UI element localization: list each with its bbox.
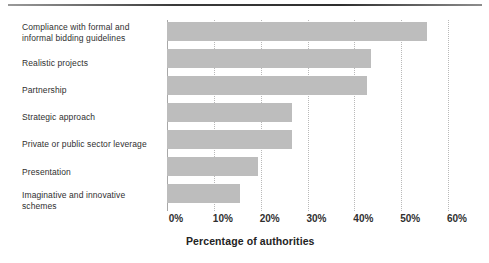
xtick-label-6: 60% xyxy=(447,213,467,224)
bar-6 xyxy=(167,184,240,203)
gridline-60 xyxy=(448,20,450,211)
bar-5 xyxy=(167,157,258,176)
category-label-0-line-1: informal bidding guidelines xyxy=(22,33,167,44)
bar-0 xyxy=(167,22,427,41)
category-label-0: Compliance with formal and informal bidd… xyxy=(22,22,167,44)
plot-area xyxy=(167,20,448,211)
category-label-3: Strategic approach xyxy=(22,112,167,123)
bar-4 xyxy=(167,130,292,149)
xtick-label-5: 50% xyxy=(400,213,420,224)
xtick-label-2: 20% xyxy=(260,213,280,224)
xtick-label-1: 10% xyxy=(213,213,233,224)
xtick-label-3: 30% xyxy=(306,213,326,224)
category-label-4: Private or public sector leverage xyxy=(22,139,167,150)
category-label-0-line-0: Compliance with formal and xyxy=(22,22,167,33)
category-label-2-line-0: Partnership xyxy=(22,85,167,96)
bar-1 xyxy=(167,49,371,68)
category-label-1: Realistic projects xyxy=(22,58,167,69)
category-label-5: Presentation xyxy=(22,167,167,178)
x-axis-title: Percentage of authorities xyxy=(186,235,315,247)
category-label-6-line-0: Imaginative and innovative xyxy=(22,190,167,201)
xtick-label-4: 40% xyxy=(353,213,373,224)
xtick-label-0: 0% xyxy=(169,213,183,224)
gridline-50 xyxy=(401,20,403,211)
bar-3 xyxy=(167,103,292,122)
category-label-6-line-1: schemes xyxy=(22,201,167,212)
category-label-2: Partnership xyxy=(22,85,167,96)
bar-chart-figure: Compliance with formal and informal bidd… xyxy=(0,0,489,263)
category-label-1-line-0: Realistic projects xyxy=(22,58,167,69)
bar-2 xyxy=(167,76,367,95)
category-label-5-line-0: Presentation xyxy=(22,167,167,178)
category-label-3-line-0: Strategic approach xyxy=(22,112,167,123)
category-label-4-line-0: Private or public sector leverage xyxy=(22,139,167,150)
category-label-6: Imaginative and innovative schemes xyxy=(22,190,167,212)
